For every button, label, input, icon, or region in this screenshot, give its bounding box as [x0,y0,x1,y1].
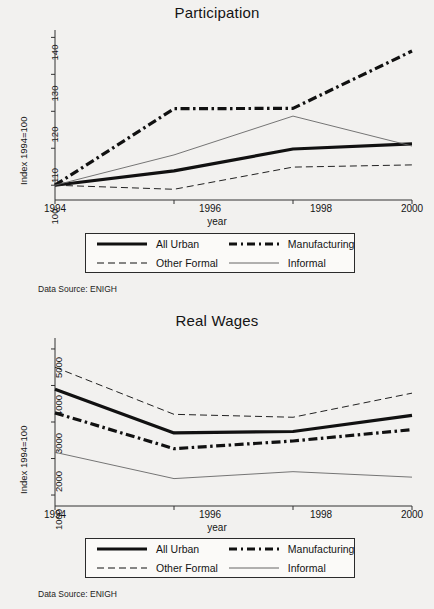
legend-item-manufacturing: Manufacturing [218,238,355,250]
x-tick-real-wages-3: 2000 [392,509,432,520]
legend-swatch-thick-solid-icon [94,543,150,555]
legend-label-all-urban: All Urban [156,238,199,250]
legend-participation: All Urban Manufacturing Other Formal [85,233,355,273]
legend-label-informal: Informal [288,562,326,574]
legend-item-informal: Informal [218,562,355,574]
legend-swatch-thick-solid-icon [94,238,150,250]
legend-item-all-urban: All Urban [86,543,218,555]
line-plot-participation [0,0,434,215]
legend-swatch-thin-solid-icon [226,257,282,269]
legend-swatch-thin-dashed-icon [94,257,150,269]
legend-item-all-urban: All Urban [86,238,218,250]
plot-area-participation [0,0,434,215]
data-source-real-wages: Data Source: ENIGH [38,589,117,599]
legend-label-informal: Informal [288,257,326,269]
legend-swatch-thick-dashdot-icon [226,543,282,555]
x-tick-participation-1: 1996 [190,203,230,214]
x-tick-real-wages-1: 1996 [190,509,230,520]
legend-label-all-urban: All Urban [156,543,199,555]
x-axis-label-participation: year [0,216,434,227]
x-tick-participation-2: 1998 [301,203,341,214]
figure-page: Participation Index 1994=100 100 110 120… [0,0,434,609]
plot-area-real-wages [0,304,434,519]
legend-label-other-formal: Other Formal [156,562,218,574]
figure-real-wages: Real Wages Index 1994=100 1000 2000 3000… [0,304,434,609]
legend-label-manufacturing: Manufacturing [288,238,355,250]
legend-item-other-formal: Other Formal [86,257,218,269]
x-axis-label-real-wages: year [0,522,434,533]
x-tick-participation-0: 1994 [35,203,75,214]
data-source-participation: Data Source: ENIGH [38,284,117,294]
legend-label-other-formal: Other Formal [156,257,218,269]
legend-swatch-thin-dashed-icon [94,562,150,574]
x-tick-real-wages-2: 1998 [301,509,341,520]
legend-item-other-formal: Other Formal [86,562,218,574]
legend-swatch-thin-solid-icon [226,562,282,574]
x-tick-real-wages-0: 1994 [35,509,75,520]
legend-item-informal: Informal [218,257,355,269]
line-plot-real-wages [0,304,434,519]
x-tick-participation-3: 2000 [392,203,432,214]
legend-label-manufacturing: Manufacturing [288,543,355,555]
figure-participation: Participation Index 1994=100 100 110 120… [0,0,434,304]
legend-item-manufacturing: Manufacturing [218,543,355,555]
legend-real-wages: All Urban Manufacturing Other Formal [85,538,355,578]
legend-swatch-thick-dashdot-icon [226,238,282,250]
